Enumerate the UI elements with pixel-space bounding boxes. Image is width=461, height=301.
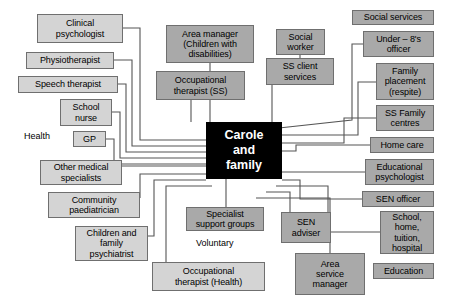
- node-gp: GP: [73, 131, 106, 147]
- central-node-carole-and-family: Caroleandfamily: [206, 122, 282, 179]
- node-label: Caroleandfamily: [225, 128, 264, 174]
- node-label: Occupationaltherapist (Health): [175, 266, 242, 286]
- node-label: Social services: [364, 12, 423, 22]
- node-label: SEN officer: [376, 194, 420, 204]
- node-label: SS Familycentres: [385, 108, 425, 128]
- node-label: Specialistsupport groups: [196, 209, 255, 229]
- node-school-home-tuition-hospital: School,home,tuition,hospital: [380, 211, 434, 254]
- node-label: Under – 8'sofficer: [376, 34, 421, 54]
- connector-ss-family-centres-to-hub: [282, 118, 376, 143]
- node-children-and-family-psychiatrist: Children andfamilypsychiatrist: [75, 226, 148, 261]
- node-ss-family-centres: SS Familycentres: [376, 105, 434, 131]
- node-label: Home care: [380, 140, 423, 150]
- node-educational-psychologist: Educationalpsychologist: [365, 159, 434, 185]
- node-physiotherapist: Physiotherapist: [26, 52, 114, 69]
- connector-family-placement-respite-to-hub: [282, 82, 376, 135]
- diagram-canvas: ClinicalpsychologistPhysiotherapistSpeec…: [0, 0, 461, 301]
- node-label: Speech therapist: [35, 79, 101, 89]
- node-label: GP: [83, 134, 96, 144]
- node-label: Areaservicemanager: [313, 259, 348, 289]
- node-label: Physiotherapist: [40, 55, 100, 65]
- node-label: Other medicalspecialists: [54, 162, 109, 182]
- voluntary-label: Voluntary: [196, 238, 234, 248]
- node-home-care: Home care: [370, 137, 434, 153]
- node-label: SS clientservices: [283, 61, 318, 81]
- node-label: Children andfamilypsychiatrist: [87, 228, 137, 258]
- node-sen-adviser: SENadviser: [281, 212, 331, 243]
- node-label: Area manager(Children withdisabilities): [182, 29, 238, 59]
- node-under-8s-officer: Under – 8'sofficer: [363, 31, 434, 57]
- node-school-nurse: Schoolnurse: [60, 99, 112, 126]
- node-sen-officer: SEN officer: [362, 191, 434, 207]
- connector-under-8s-officer-to-hub: [279, 44, 363, 128]
- node-clinical-psychologist: Clinicalpsychologist: [37, 14, 123, 43]
- connector-home-care-to-hub: [282, 145, 370, 151]
- node-occupational-therapist-ss: Occupationaltherapist (SS): [156, 71, 245, 100]
- node-family-placement-respite: Familyplacement(respite): [376, 63, 434, 100]
- node-label: Familyplacement(respite): [385, 66, 426, 96]
- node-label: School,home,tuition,hospital: [392, 212, 422, 252]
- node-label: Socialworker: [287, 32, 313, 52]
- node-occupational-therapist-health: Occupationaltherapist (Health): [152, 262, 265, 291]
- node-speech-therapist: Speech therapist: [18, 76, 118, 93]
- connector-sen-officer-to-hub: [282, 180, 362, 199]
- node-social-services: Social services: [352, 10, 434, 25]
- node-social-worker: Socialworker: [276, 29, 325, 55]
- connector-sen-adviser-to-hub: [266, 192, 290, 212]
- node-area-service-manager: Areaservicemanager: [295, 253, 365, 295]
- node-label: Schoolnurse: [73, 102, 100, 122]
- node-community-paediatrician: Communitypaediatrician: [48, 192, 140, 218]
- node-label: Education: [384, 266, 423, 276]
- node-specialist-support-groups: Specialistsupport groups: [186, 207, 264, 231]
- node-label: Educationalpsychologist: [375, 162, 423, 182]
- node-area-manager-children-with-disabilities: Area manager(Children withdisabilities): [166, 25, 254, 63]
- node-ss-client-services: SS clientservices: [266, 58, 334, 85]
- node-label: Clinicalpsychologist: [56, 18, 104, 38]
- health-label: Health: [24, 131, 50, 141]
- node-other-medical-specialists: Other medicalspecialists: [40, 160, 122, 185]
- node-label: Occupationaltherapist (SS): [174, 75, 228, 95]
- node-education: Education: [373, 263, 434, 279]
- node-label: Communitypaediatrician: [69, 195, 119, 215]
- node-label: SENadviser: [292, 217, 320, 237]
